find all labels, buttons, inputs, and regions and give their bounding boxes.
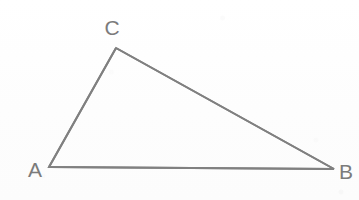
triangle-shape	[49, 48, 334, 169]
edge-bc	[116, 48, 334, 169]
vertex-label-b: B	[339, 161, 353, 182]
vertex-label-a: A	[28, 159, 42, 180]
geometry-figure-canvas: A B C	[0, 0, 359, 200]
vertex-label-c: C	[104, 17, 119, 38]
edge-ab	[49, 167, 334, 169]
edge-ca	[49, 48, 116, 167]
triangle-drawing	[0, 0, 359, 200]
